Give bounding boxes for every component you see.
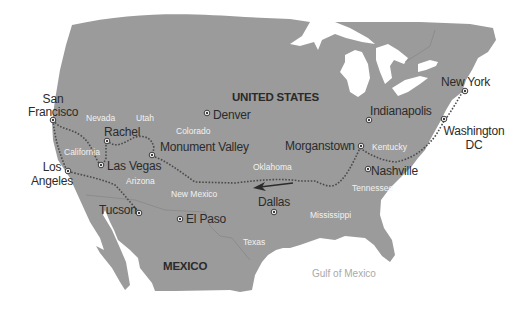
us-road-trip-map: UNITED STATES MEXICO Gulf of Mexico Neva… (0, 0, 515, 311)
city-marker-nashville (365, 166, 371, 172)
city-marker-dallas (271, 209, 277, 215)
city-marker-monument-valley (149, 152, 155, 158)
city-marker-rachel (104, 138, 110, 144)
city-marker-new-york (462, 88, 468, 94)
country-label-mexico: MEXICO (163, 261, 207, 273)
state-label-colorado: Colorado (176, 127, 211, 136)
city-label-denver: Denver (213, 109, 250, 121)
state-label-oklahoma: Oklahoma (253, 163, 292, 172)
city-label-nashville: Nashville (371, 165, 418, 177)
city-marker-las-vegas (98, 162, 104, 168)
country-label-united-states: UNITED STATES (232, 92, 319, 104)
city-label-san-francisco: San Francisco (28, 93, 78, 118)
city-label-rachel: Rachel (104, 126, 140, 138)
state-label-new-mexico: New Mexico (171, 190, 217, 199)
state-label-nevada: Nevada (86, 114, 115, 123)
city-label-las-vegas: Las Vegas (107, 160, 161, 172)
water-label-gulf-of-mexico: Gulf of Mexico (312, 269, 376, 279)
state-label-kentucky: Kentucky (372, 143, 407, 152)
state-label-california: California (64, 148, 100, 157)
city-label-washington-dc: Washington DC (436, 125, 512, 151)
city-label-morganstown: Morganstown (285, 140, 355, 152)
state-label-mississippi: Mississippi (310, 211, 351, 220)
state-label-arizona: Arizona (126, 177, 155, 186)
city-label-dallas: Dallas (258, 196, 290, 208)
city-marker-morganstown (358, 143, 364, 149)
city-marker-tucson (136, 210, 142, 216)
state-label-utah: Utah (136, 114, 154, 123)
state-label-tennessee: Tennessee (352, 184, 393, 193)
state-label-texas: Texas (243, 238, 265, 247)
city-marker-denver (204, 110, 210, 116)
city-label-tucson: Tucson (99, 204, 137, 216)
city-label-indianapolis: Indianapolis (370, 105, 432, 117)
city-marker-el-paso (177, 216, 183, 222)
city-marker-washington-dc (441, 116, 447, 122)
city-label-new-york: New York (441, 76, 490, 88)
land-mass (52, 14, 496, 292)
city-label-monument-valley: Monument Valley (160, 141, 249, 153)
city-marker-indianapolis (366, 117, 372, 123)
city-label-el-paso: El Paso (186, 213, 226, 225)
city-label-los-angeles: Los Angeles (30, 161, 74, 187)
